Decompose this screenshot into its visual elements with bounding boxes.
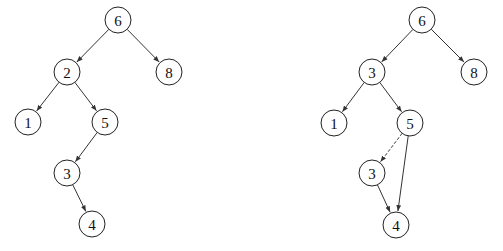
left-tree-node-2: 2 bbox=[54, 59, 80, 85]
left-tree-edge-3-to-4 bbox=[73, 185, 86, 212]
node-label: 8 bbox=[470, 65, 478, 81]
left-tree-edge-6-to-8 bbox=[127, 29, 159, 62]
node-label: 6 bbox=[114, 13, 122, 29]
right-tree-edge-3-to-5 bbox=[380, 82, 402, 111]
node-label: 2 bbox=[63, 65, 71, 81]
left-tree-edge-2-to-1 bbox=[37, 82, 59, 111]
right-tree-node-1: 1 bbox=[321, 110, 347, 136]
node-label: 8 bbox=[165, 65, 173, 81]
node-label: 3 bbox=[368, 65, 376, 81]
left-tree-edge-6-to-2 bbox=[77, 29, 109, 62]
node-label: 4 bbox=[88, 217, 96, 233]
right-tree-node-3: 3 bbox=[359, 59, 385, 85]
nodes-layer: 62815346381534 bbox=[15, 7, 487, 238]
right-tree-node-6: 6 bbox=[409, 7, 435, 33]
right-tree-edge-5-to-4 bbox=[398, 136, 408, 211]
left-tree-node-4: 4 bbox=[79, 211, 105, 237]
right-tree-node-8: 8 bbox=[461, 59, 487, 85]
tree-diagram: 62815346381534 bbox=[0, 0, 503, 251]
left-tree-edge-5-to-3 bbox=[75, 132, 97, 161]
right-tree-node-5: 5 bbox=[397, 110, 423, 136]
left-tree-node-1: 1 bbox=[15, 109, 41, 135]
left-tree-node-6: 6 bbox=[105, 7, 131, 33]
right-tree-edge-3-to-4 bbox=[377, 185, 390, 212]
node-label: 5 bbox=[101, 115, 109, 131]
node-label: 3 bbox=[63, 166, 71, 182]
right-tree-node-3: 3 bbox=[359, 160, 385, 186]
left-tree-node-8: 8 bbox=[156, 59, 182, 85]
node-label: 4 bbox=[392, 218, 400, 234]
right-tree-edge-6-to-8 bbox=[431, 29, 464, 62]
left-tree-node-5: 5 bbox=[92, 109, 118, 135]
node-label: 1 bbox=[330, 116, 338, 132]
right-tree-edge-3-to-1 bbox=[342, 82, 364, 111]
right-tree-edge-5-to-3 bbox=[380, 133, 402, 162]
node-label: 1 bbox=[24, 115, 32, 131]
left-tree-edge-2-to-5 bbox=[75, 82, 97, 111]
node-label: 3 bbox=[368, 166, 376, 182]
node-label: 5 bbox=[406, 116, 414, 132]
right-tree-node-4: 4 bbox=[383, 212, 409, 238]
node-label: 6 bbox=[418, 13, 426, 29]
left-tree-node-3: 3 bbox=[54, 160, 80, 186]
right-tree-edge-6-to-3 bbox=[382, 29, 413, 62]
